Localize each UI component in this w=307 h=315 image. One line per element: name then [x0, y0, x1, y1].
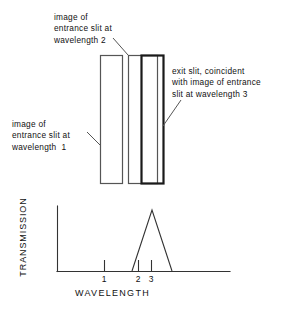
x-axis-ticks: [105, 260, 152, 271]
image-slit-wavelength-2-rect: [129, 56, 158, 184]
slit-group: [101, 56, 164, 184]
image-slit-wavelength-1-rect: [101, 56, 123, 184]
leader-wavelength-2-line: [113, 38, 128, 55]
x-axis-title: WAVELENGTH: [75, 288, 150, 298]
leader-exit-slit-line: [163, 100, 181, 126]
annotation-exit-slit: exit slit, coincident with image of entr…: [172, 66, 261, 100]
figure-canvas: [0, 0, 307, 315]
annotation-image-slit-wavelength-1: image of entrance slit at wavelength 1: [12, 119, 70, 153]
x-tick-label-1: 1: [98, 274, 110, 284]
x-tick-label-2: 2: [132, 274, 144, 284]
annotation-image-slit-wavelength-2: image of entrance slit at wavelength 2: [54, 12, 112, 46]
plot-axes: [57, 206, 230, 272]
y-axis-title: TRANSMISSION: [18, 197, 28, 277]
leader-wavelength-1-line: [87, 132, 100, 145]
x-tick-label-3: 3: [145, 274, 157, 284]
slit-transmission-figure: image of entrance slit at wavelength 2 i…: [0, 0, 307, 315]
